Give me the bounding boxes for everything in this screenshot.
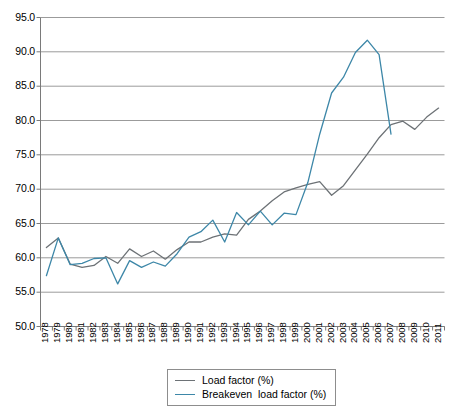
legend-line-swatch <box>175 394 195 395</box>
x-axis-tick-label: 2006 <box>372 322 383 343</box>
x-axis-tick-label: 2002 <box>325 322 336 343</box>
x-axis-tick-label: 1989 <box>170 322 181 343</box>
x-axis-tick-label: 2008 <box>396 322 407 343</box>
x-axis-tick-label: 2004 <box>348 322 359 343</box>
x-axis-tick-label: 1994 <box>230 322 241 343</box>
y-axis-tick-label: 95.0 <box>1 11 35 23</box>
x-axis-tick-label: 1980 <box>63 322 74 343</box>
x-axis-tick-label: 1983 <box>99 322 110 343</box>
x-axis-tick-label: 2005 <box>360 322 371 343</box>
x-axis-tick-label: 1997 <box>265 322 276 343</box>
y-axis-tick-label: 50.0 <box>1 320 35 332</box>
x-axis-tick-label: 1981 <box>75 322 86 343</box>
legend-item-label: Breakeven load factor (%) <box>202 388 326 400</box>
x-axis-tick-label: 2007 <box>384 322 395 343</box>
line-chart: 50.055.060.065.070.075.080.085.090.095.0… <box>0 0 454 417</box>
x-axis-tick-label: 1999 <box>289 322 300 343</box>
x-axis-tick-label: 2011 <box>432 322 443 342</box>
x-axis-tick-label: 2009 <box>408 322 419 343</box>
y-axis-tick-label: 65.0 <box>1 217 35 229</box>
y-axis-tick-label: 55.0 <box>1 285 35 297</box>
x-axis-tick-label: 2001 <box>313 322 324 343</box>
x-axis-tick-label: 1986 <box>135 322 146 343</box>
y-axis-tick-label: 85.0 <box>1 79 35 91</box>
y-axis-tick-label: 60.0 <box>1 251 35 263</box>
chart-legend: Load factor (%)Breakeven load factor (%) <box>167 369 336 406</box>
x-axis-tick-label: 1991 <box>194 322 205 343</box>
series-line <box>46 40 391 284</box>
x-axis-tick-label: 1987 <box>146 322 157 343</box>
x-axis-tick-label: 2000 <box>301 322 312 343</box>
y-axis-tick-label: 75.0 <box>1 148 35 160</box>
x-axis-tick-label: 1993 <box>218 322 229 343</box>
x-axis-tick-label: 1996 <box>253 322 264 343</box>
x-axis-tick-label: 1978 <box>39 322 50 343</box>
x-axis-tick-label: 1992 <box>206 322 217 343</box>
legend-item-label: Load factor (%) <box>202 374 274 386</box>
y-axis-tick-label: 70.0 <box>1 182 35 194</box>
y-axis-tick-label: 90.0 <box>1 45 35 57</box>
x-axis-tick-label: 1998 <box>277 322 288 343</box>
x-axis-tick-label: 1979 <box>51 322 62 343</box>
x-axis-tick-label: 1984 <box>111 322 122 343</box>
x-axis-tick-label: 1988 <box>158 322 169 343</box>
legend-item[interactable]: Load factor (%) <box>175 373 328 387</box>
x-axis-tick-label: 1985 <box>123 322 134 343</box>
x-axis-tick-label: 1995 <box>241 322 252 343</box>
x-axis-tick-label: 2010 <box>420 322 431 343</box>
chart-plot-area <box>0 0 454 417</box>
x-axis-tick-label: 1990 <box>182 322 193 343</box>
legend-line-swatch <box>175 380 195 381</box>
x-axis-tick-label: 2003 <box>337 322 348 343</box>
y-axis-tick-label: 80.0 <box>1 114 35 126</box>
series-line <box>46 108 438 267</box>
x-axis-tick-label: 1982 <box>87 322 98 343</box>
legend-item[interactable]: Breakeven load factor (%) <box>175 387 328 401</box>
